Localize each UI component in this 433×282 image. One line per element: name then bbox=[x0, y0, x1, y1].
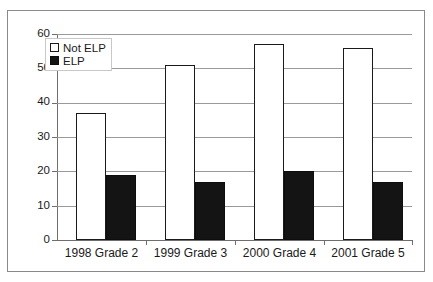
y-tick-label: 20 bbox=[6, 165, 50, 176]
x-tick-label: 1999 Grade 3 bbox=[146, 246, 235, 260]
x-tick-mark bbox=[324, 240, 325, 245]
bar-group bbox=[146, 34, 235, 240]
bar-elp[interactable] bbox=[284, 171, 314, 240]
bar-not-elp[interactable] bbox=[254, 44, 284, 240]
bar-not-elp[interactable] bbox=[76, 113, 106, 240]
bar-elp[interactable] bbox=[195, 182, 225, 240]
bar-group bbox=[324, 34, 412, 240]
y-tick-label: 50 bbox=[6, 62, 50, 73]
bar-not-elp[interactable] bbox=[165, 65, 195, 240]
y-tick-label: 60 bbox=[6, 28, 50, 39]
y-tick-label: 10 bbox=[6, 200, 50, 211]
x-tick-label: 2000 Grade 4 bbox=[235, 246, 324, 260]
x-tick-mark bbox=[235, 240, 236, 245]
open-square-marker-icon bbox=[50, 43, 59, 52]
filled-square-marker-icon bbox=[50, 56, 59, 65]
legend-label: ELP bbox=[63, 55, 85, 67]
x-tick-label: 2001 Grade 5 bbox=[324, 246, 412, 260]
legend-item-not-elp[interactable]: Not ELP bbox=[50, 41, 106, 54]
chart-legend: Not ELP ELP bbox=[45, 38, 112, 71]
bar-not-elp[interactable] bbox=[343, 48, 373, 240]
y-tick-label: 0 bbox=[6, 234, 50, 245]
bar-elp[interactable] bbox=[106, 175, 136, 240]
y-tick-label: 40 bbox=[6, 96, 50, 107]
legend-label: Not ELP bbox=[63, 42, 106, 54]
x-tick-label: 1998 Grade 2 bbox=[57, 246, 146, 260]
x-axis-labels: 1998 Grade 2 1999 Grade 3 2000 Grade 4 2… bbox=[57, 246, 412, 266]
y-axis-labels: 60 50 40 30 20 10 0 bbox=[0, 0, 50, 282]
bar-group bbox=[235, 34, 324, 240]
chart-figure: 60 50 40 30 20 10 0 bbox=[0, 0, 433, 282]
x-tick-mark bbox=[412, 240, 413, 245]
y-tick-label: 30 bbox=[6, 131, 50, 142]
legend-item-elp[interactable]: ELP bbox=[50, 54, 106, 67]
bar-elp[interactable] bbox=[373, 182, 403, 240]
x-tick-mark bbox=[146, 240, 147, 245]
